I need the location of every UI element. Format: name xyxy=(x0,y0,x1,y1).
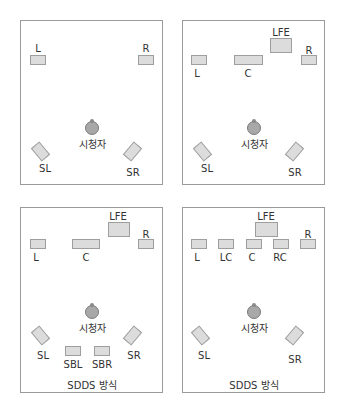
listener-label: 시청자 xyxy=(79,324,106,334)
speaker-label-l: L xyxy=(35,44,41,54)
speaker-label-sr: SR xyxy=(288,168,301,178)
speaker-sl xyxy=(31,325,50,345)
speaker-label-c: C xyxy=(245,69,252,79)
speaker-label-l: L xyxy=(194,253,200,263)
speaker-label-l: L xyxy=(194,69,200,79)
speaker-label-sl: SL xyxy=(39,164,51,174)
speaker-label-sr: SR xyxy=(127,351,140,361)
speaker-label-sbr: SBR xyxy=(92,360,112,370)
speaker-label-sl: SL xyxy=(201,164,213,174)
listener-icon xyxy=(85,121,99,135)
speaker-lc xyxy=(218,239,234,249)
speaker-label-sl: SL xyxy=(198,351,210,361)
panel-sdds-back: LFE L C R 시청자 SL SR SBL SBR SDDS 방식 xyxy=(20,207,163,393)
speaker-l xyxy=(30,239,46,249)
panel-caption: SDDS 방식 xyxy=(229,381,278,391)
speaker-c xyxy=(234,55,263,65)
speaker-label-c: C xyxy=(249,253,256,263)
speaker-label-lfe: LFE xyxy=(272,28,290,38)
speaker-lfe xyxy=(270,38,292,53)
speaker-c xyxy=(246,239,262,249)
panel-caption: SDDS 방식 xyxy=(67,381,116,391)
speaker-label-sr: SR xyxy=(288,355,301,365)
speaker-sbr xyxy=(94,346,110,356)
speaker-sl xyxy=(193,141,212,161)
speaker-r xyxy=(138,239,154,249)
listener-icon xyxy=(247,121,261,135)
speaker-sl xyxy=(31,141,50,161)
speaker-label-c: C xyxy=(83,253,90,263)
listener-label: 시청자 xyxy=(241,324,268,334)
speaker-l xyxy=(30,55,46,65)
panel-stereo-surround: L R 시청자 SL SR xyxy=(20,20,163,185)
speaker-lfe xyxy=(255,222,278,237)
speaker-label-sl: SL xyxy=(37,351,49,361)
speaker-sr xyxy=(285,141,304,161)
speaker-l xyxy=(191,55,207,65)
speaker-rc xyxy=(273,239,289,249)
listener-label: 시청자 xyxy=(79,140,106,150)
speaker-label-r: R xyxy=(143,44,150,54)
speaker-l xyxy=(191,239,207,249)
panel-sdds-front: LFE L LC C RC R 시청자 SL SR SDDS 방식 xyxy=(182,207,325,393)
speaker-label-lfe: LFE xyxy=(109,212,127,222)
speaker-label-l: L xyxy=(33,253,39,263)
speaker-label-sbl: SBL xyxy=(64,360,83,370)
speaker-sbl xyxy=(65,346,81,356)
listener-icon xyxy=(85,305,99,319)
speaker-label-sr: SR xyxy=(126,168,139,178)
listener-icon xyxy=(247,305,261,319)
speaker-label-rc: RC xyxy=(273,253,286,263)
speaker-label-lfe: LFE xyxy=(257,212,275,222)
panel-5-1: LFE L C R 시청자 SL SR xyxy=(182,20,325,185)
speaker-c xyxy=(72,239,100,249)
speaker-sr xyxy=(285,325,304,345)
speaker-lfe xyxy=(108,222,130,237)
speaker-sl xyxy=(191,325,210,345)
speaker-label-lc: LC xyxy=(220,253,233,263)
speaker-sr xyxy=(123,141,142,161)
listener-label: 시청자 xyxy=(241,140,268,150)
speaker-r xyxy=(138,55,154,65)
speaker-r xyxy=(300,239,316,249)
speaker-sr xyxy=(123,325,142,345)
speaker-r xyxy=(301,55,317,65)
